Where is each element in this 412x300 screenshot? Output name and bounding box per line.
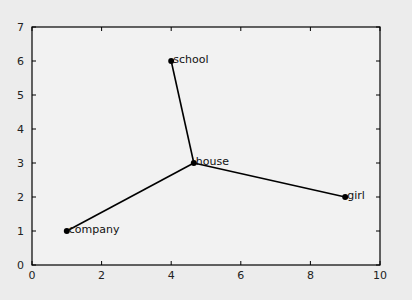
y-tick-label: 5 — [17, 89, 24, 102]
x-tick-label: 2 — [98, 269, 105, 282]
point-house: house — [191, 155, 229, 168]
point-label: school — [173, 53, 208, 66]
y-tick-label: 3 — [17, 157, 24, 170]
point-label: company — [69, 223, 120, 236]
y-tick-label: 1 — [17, 225, 24, 238]
x-tick-label: 6 — [237, 269, 244, 282]
point-school: school — [168, 53, 208, 66]
point-label: house — [196, 155, 229, 168]
y-tick-label: 0 — [17, 259, 24, 272]
point-company: company — [64, 223, 120, 236]
x-tick-label: 8 — [307, 269, 314, 282]
point-label: girl — [347, 189, 365, 202]
x-tick-label: 10 — [373, 269, 387, 282]
chart-figure: 024681001234567 schoolhousecompanygirl — [0, 0, 412, 300]
y-tick-label: 4 — [17, 123, 24, 136]
y-tick-label: 2 — [17, 191, 24, 204]
y-tick-label: 6 — [17, 55, 24, 68]
x-tick-label: 0 — [29, 269, 36, 282]
y-tick-label: 7 — [17, 21, 24, 34]
chart-canvas: 024681001234567 schoolhousecompanygirl — [0, 0, 412, 300]
x-tick-label: 4 — [168, 269, 175, 282]
